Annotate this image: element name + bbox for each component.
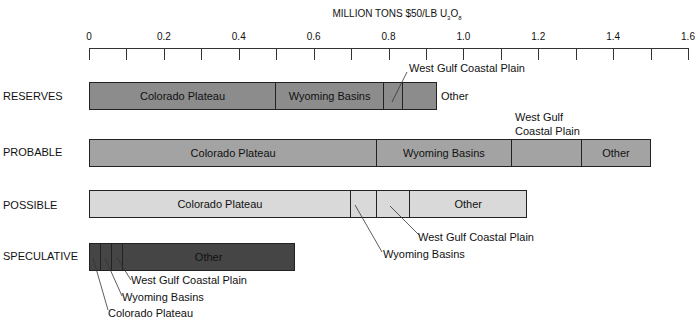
leader-lines [0, 0, 699, 323]
